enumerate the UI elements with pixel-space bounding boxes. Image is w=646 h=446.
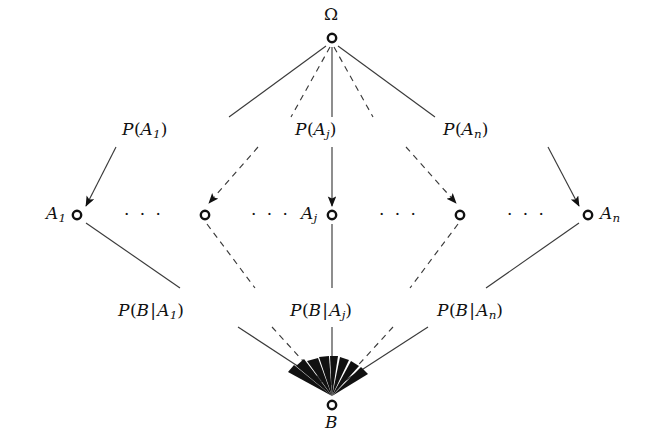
script-p-icon: P <box>290 300 302 320</box>
paren-open: ( <box>307 119 314 139</box>
paren-open: ( <box>134 119 141 139</box>
node-label-aj: Aj <box>301 205 317 225</box>
node-label-a1-base: A <box>46 203 58 223</box>
paren-close: ) <box>496 300 503 320</box>
paren-close: ) <box>345 300 352 320</box>
node-label-omega: Ω <box>324 6 338 23</box>
node-label-a1: A1 <box>46 205 66 225</box>
paren-open: ( <box>130 300 137 320</box>
node-label-aj-sub: j <box>313 211 317 225</box>
node-label-an: An <box>600 205 620 225</box>
edge-a1-to-b-seg1 <box>86 223 180 288</box>
edge-omega-to-a1-seg1 <box>229 46 326 117</box>
event-base: A <box>157 300 169 320</box>
node-label-an-base: A <box>600 203 612 223</box>
edge-omega-to-adots1-seg2 <box>209 147 258 203</box>
script-p-icon: P <box>437 300 449 320</box>
conditional-bar: | <box>321 300 329 320</box>
bayes-partition-diagram: Ω A1 Aj An B · · · · · · · · · · · · P(A… <box>0 0 646 446</box>
edge-omega-to-an-seg2 <box>548 147 579 206</box>
event-base: A <box>476 300 488 320</box>
node-b[interactable] <box>328 401 336 409</box>
node-adots2[interactable] <box>456 211 464 219</box>
node-label-b: B <box>325 414 338 431</box>
paren-close: ) <box>177 300 184 320</box>
event-cond: B <box>137 300 150 320</box>
event-cond: B <box>456 300 469 320</box>
paren-open: ( <box>455 119 462 139</box>
conditional-bar: | <box>149 300 157 320</box>
ellipsis-left-2: · · · <box>251 206 291 223</box>
node-label-an-sub: n <box>612 211 620 225</box>
edge-label-p-b-given-an: P(B|An) <box>437 302 503 322</box>
node-an[interactable] <box>584 211 592 219</box>
edge-label-p-b-given-a1: P(B|A1) <box>118 302 184 322</box>
node-adots1[interactable] <box>201 211 209 219</box>
event-base: A <box>462 119 474 139</box>
paren-close: ) <box>330 119 337 139</box>
edge-adots2-to-b-seg1 <box>410 224 458 288</box>
b-convergence-fan <box>288 356 368 396</box>
node-label-aj-base: A <box>301 203 313 223</box>
ellipsis-left-1: · · · <box>124 206 164 223</box>
event-base: A <box>141 119 153 139</box>
edge-omega-to-an-seg1 <box>338 46 435 117</box>
paren-close: ) <box>482 119 489 139</box>
script-p-icon: P <box>122 119 134 139</box>
node-aj[interactable] <box>328 211 336 219</box>
node-omega[interactable] <box>328 34 336 42</box>
edge-an-to-b-seg1 <box>486 223 579 288</box>
edge-omega-to-adots2-seg2 <box>406 147 456 203</box>
paren-close: ) <box>161 119 168 139</box>
event-cond: B <box>309 300 322 320</box>
event-sub: n <box>474 127 482 141</box>
node-a1[interactable] <box>73 211 81 219</box>
event-base: A <box>314 119 326 139</box>
diagram-canvas <box>0 0 646 446</box>
edge-label-p-b-given-aj: P(B|Aj) <box>290 302 352 322</box>
edge-label-p-aj: P(Aj) <box>295 121 336 141</box>
ellipsis-right-1: · · · <box>379 206 419 223</box>
edge-label-p-a1: P(A1) <box>122 121 167 141</box>
script-p-icon: P <box>118 300 130 320</box>
event-sub: 1 <box>153 127 161 141</box>
conditional-bar: | <box>468 300 476 320</box>
ellipsis-right-2: · · · <box>507 206 547 223</box>
event-base: A <box>329 300 341 320</box>
paren-open: ( <box>449 300 456 320</box>
script-p-icon: P <box>295 119 307 139</box>
paren-open: ( <box>302 300 309 320</box>
node-label-a1-sub: 1 <box>58 211 66 225</box>
edge-adots1-to-b-seg1 <box>207 224 255 288</box>
script-p-icon: P <box>443 119 455 139</box>
edge-omega-to-a1-seg2 <box>86 147 116 206</box>
edge-label-p-an: P(An) <box>443 121 488 141</box>
